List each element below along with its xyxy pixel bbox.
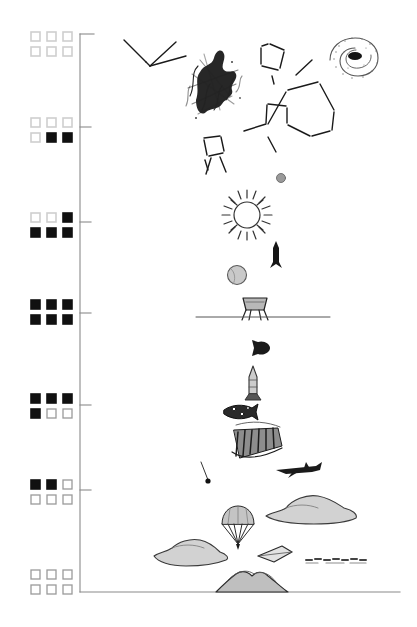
- diagram-canvas: [0, 0, 417, 627]
- legend-square-filled: [47, 228, 56, 237]
- legend-square-empty: [31, 570, 40, 579]
- legend-square-empty: [31, 495, 40, 504]
- legend-square-filled: [63, 315, 72, 324]
- legend-square-filled: [47, 315, 56, 324]
- legend-square-empty: [63, 585, 72, 594]
- legend-square-filled: [63, 300, 72, 309]
- legend-square-filled: [63, 213, 72, 222]
- legend-square-filled: [31, 228, 40, 237]
- legend-square-empty: [47, 585, 56, 594]
- legend-square-filled: [47, 394, 56, 403]
- legend-square-empty: [63, 409, 72, 418]
- moon-disc-icon: [228, 266, 247, 285]
- altitude-scale-figure: [0, 0, 417, 627]
- legend-square-filled: [31, 480, 40, 489]
- legend-square-filled: [31, 300, 40, 309]
- legend-square-filled: [31, 394, 40, 403]
- legend-square-empty: [47, 495, 56, 504]
- legend-square-empty: [63, 570, 72, 579]
- sun-with-rays-icon: [222, 190, 272, 240]
- legend-square-empty: [31, 585, 40, 594]
- legend-square-filled: [47, 133, 56, 142]
- distant-planet-dot-icon: [277, 174, 286, 183]
- legend-square-empty: [63, 495, 72, 504]
- legend-square-filled: [31, 409, 40, 418]
- legend-square-empty: [63, 480, 72, 489]
- legend-square-filled: [63, 228, 72, 237]
- legend-square-filled: [47, 300, 56, 309]
- legend-square-filled: [47, 480, 56, 489]
- legend-square-filled: [31, 315, 40, 324]
- legend-square-filled: [63, 394, 72, 403]
- legend-square-filled: [63, 133, 72, 142]
- legend-square-empty: [47, 409, 56, 418]
- legend-square-empty: [47, 570, 56, 579]
